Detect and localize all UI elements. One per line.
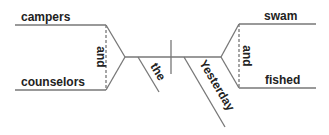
modifier-word-the: the	[147, 60, 168, 83]
subject-conjunction-word: and	[94, 46, 108, 67]
predicate-fork-upper	[221, 24, 239, 57]
predicate-conjunction-word: and	[240, 45, 254, 66]
subject-word-counselors: counselors	[21, 75, 85, 89]
sentence-diagram: campers counselors and the Yesterday and…	[0, 0, 329, 135]
modifier-word-yesterday: Yesterday	[196, 57, 237, 113]
predicate-word-fished: fished	[265, 73, 300, 87]
subject-word-campers: campers	[21, 10, 71, 24]
predicate-word-swam: swam	[264, 9, 297, 23]
